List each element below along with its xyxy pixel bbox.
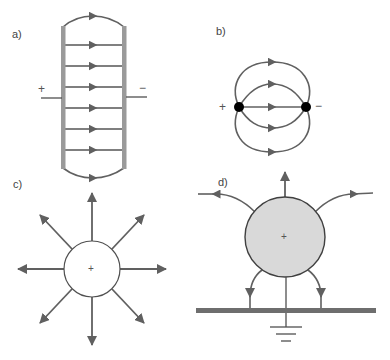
negative-plate bbox=[122, 26, 127, 169]
panel-label-a: a) bbox=[12, 28, 22, 40]
panel-label-c: c) bbox=[13, 178, 22, 190]
negative-sign-a: − bbox=[139, 82, 146, 94]
positive-sign-b: + bbox=[219, 101, 226, 113]
electric-field-figure bbox=[0, 0, 390, 360]
center-sign-c: + bbox=[88, 263, 94, 275]
positive-sign-a: + bbox=[38, 83, 45, 95]
center-sign-d: + bbox=[281, 231, 287, 243]
negative-sign-b: − bbox=[315, 100, 322, 112]
panel-d-grounded-plane bbox=[196, 172, 376, 341]
field-line-top-arc bbox=[63, 16, 93, 27]
panel-label-d: d) bbox=[218, 176, 228, 188]
straight-field-lines bbox=[64, 45, 123, 150]
panel-b-dipole bbox=[234, 62, 311, 152]
negative-charge-dot bbox=[301, 102, 311, 112]
panel-a-capacitor bbox=[41, 13, 147, 178]
field-line-top-arc bbox=[63, 13, 93, 27]
ground-symbol-icon bbox=[270, 327, 302, 341]
positive-charge-dot bbox=[234, 102, 244, 112]
field-line-bottom-arc bbox=[63, 168, 93, 178]
panel-label-b: b) bbox=[216, 25, 226, 37]
ground-plane bbox=[196, 308, 376, 313]
